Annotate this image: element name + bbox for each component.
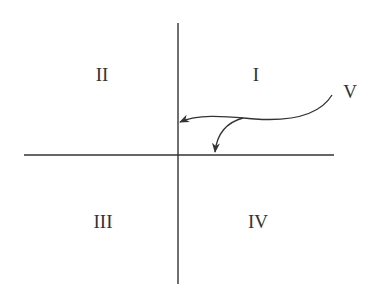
- quadrant-diagram: I II III IV V: [0, 0, 370, 296]
- quadrant-label-iv: IV: [248, 211, 268, 232]
- quadrant-label-iii: III: [94, 211, 113, 232]
- curve-branch-arrow: [215, 118, 243, 152]
- curve-v-main-arrow: [180, 95, 332, 122]
- quadrant-label-ii: II: [96, 64, 109, 85]
- quadrant-label-i: I: [253, 64, 259, 85]
- curve-label-v: V: [343, 81, 357, 102]
